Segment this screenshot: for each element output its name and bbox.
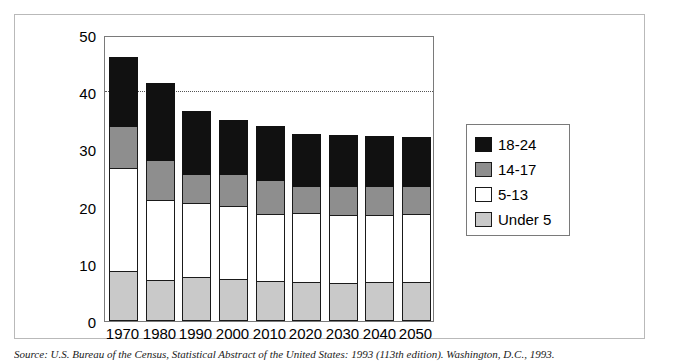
bar-1970 (109, 58, 138, 321)
bar-segment-2050-5-13 (402, 214, 431, 283)
bar-segment-2010-14-17 (256, 180, 285, 215)
bar-segment-2020-14-17 (292, 186, 321, 214)
y-axis-tick-label: 0 (56, 315, 96, 330)
y-axis-tick-label: 20 (56, 200, 96, 215)
legend-item-under-5: Under 5 (475, 207, 569, 232)
bar-segment-2010-18-24 (256, 126, 285, 181)
x-axis-tick-label-1980: 1980 (141, 325, 178, 343)
y-axis-tick-label: 10 (56, 257, 96, 272)
x-axis-tick-label-2040: 2040 (361, 325, 398, 343)
bar-segment-2020-18-24 (292, 134, 321, 186)
x-axis-tick-label-2020: 2020 (287, 325, 324, 343)
y-axis-tick-labels: 01020304050 (56, 36, 100, 322)
y-axis-tick-label: 40 (56, 86, 96, 101)
bar-segment-2030-14-17 (329, 186, 358, 217)
bar-segment-2050-14-17 (402, 186, 431, 215)
bar-2000 (219, 121, 248, 321)
black-swatch (475, 137, 492, 152)
bar-segment-1980-18-24 (146, 83, 175, 161)
bar-segment-2000-5-13 (219, 206, 248, 281)
bar-segment-1980-5-13 (146, 200, 175, 281)
bar-segment-1970-under-5 (109, 271, 138, 321)
bar-2020 (292, 135, 321, 321)
y-axis-tick-label: 50 (56, 29, 96, 44)
bar-segment-2040-under-5 (365, 282, 394, 321)
bar-1990 (182, 112, 211, 321)
bar-segment-2000-18-24 (219, 120, 248, 175)
bar-segment-2050-under-5 (402, 282, 431, 321)
source-caption: Source: U.S. Bureau of the Census, Stati… (14, 348, 666, 361)
bar-segment-1970-5-13 (109, 168, 138, 271)
legend-item-label: 14-17 (498, 162, 536, 177)
bar-segment-1980-14-17 (146, 160, 175, 201)
bar-segment-1990-5-13 (182, 203, 211, 278)
bar-segment-2020-5-13 (292, 213, 321, 283)
legend-item-label: 18-24 (498, 137, 536, 152)
bar-2030 (329, 136, 358, 321)
bar-segment-2010-5-13 (256, 214, 285, 282)
plot-area (104, 36, 434, 322)
figure-container: 01020304050 1970198019902000201020202030… (0, 0, 680, 361)
x-axis-tick-labels: 197019801990200020102020203020402050 (104, 325, 434, 347)
chart-legend: 18-2414-175-13Under 5 (466, 124, 570, 236)
bar-2040 (365, 137, 394, 321)
bar-segment-1990-under-5 (182, 277, 211, 321)
x-axis-tick-label-1990: 1990 (177, 325, 214, 343)
legend-item-5-13: 5-13 (475, 182, 569, 207)
bar-segment-1990-14-17 (182, 174, 211, 204)
bar-1980 (146, 84, 175, 321)
y-axis-tick-label: 30 (56, 143, 96, 158)
plot-inner (105, 37, 433, 321)
bar-2050 (402, 138, 431, 321)
bar-segment-2030-under-5 (329, 283, 358, 321)
x-axis-tick-label-2030: 2030 (324, 325, 361, 343)
legend-item-18-24: 18-24 (475, 132, 569, 157)
bar-segment-2020-under-5 (292, 282, 321, 321)
x-axis-tick-label-2050: 2050 (397, 325, 434, 343)
white-swatch (475, 187, 492, 202)
bar-segment-2030-18-24 (329, 135, 358, 186)
bar-2010 (256, 127, 285, 321)
bar-segment-2000-under-5 (219, 279, 248, 321)
bar-segment-2040-14-17 (365, 186, 394, 216)
x-axis-tick-label-1970: 1970 (104, 325, 141, 343)
bar-segment-2040-18-24 (365, 136, 394, 187)
bar-segment-1970-14-17 (109, 126, 138, 170)
bar-segment-1980-under-5 (146, 280, 175, 321)
bar-segment-2030-5-13 (329, 215, 358, 283)
light-gray-swatch (475, 212, 492, 227)
x-axis-tick-label-2010: 2010 (251, 325, 288, 343)
dark-gray-swatch (475, 162, 492, 177)
bar-segment-2040-5-13 (365, 215, 394, 283)
bar-segment-2050-18-24 (402, 137, 431, 187)
bar-segment-2000-14-17 (219, 174, 248, 206)
legend-item-label: 5-13 (498, 187, 528, 202)
legend-item-label: Under 5 (498, 212, 551, 227)
bar-segment-1990-18-24 (182, 111, 211, 175)
x-axis-tick-label-2000: 2000 (214, 325, 251, 343)
legend-item-14-17: 14-17 (475, 157, 569, 182)
bar-segment-1970-18-24 (109, 57, 138, 127)
bar-segment-2010-under-5 (256, 281, 285, 321)
